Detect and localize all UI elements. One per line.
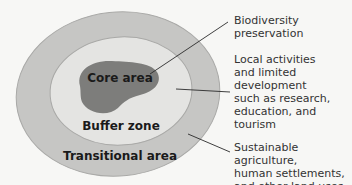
transitional-area-label: Transitional area bbox=[63, 149, 177, 163]
core-area-note: Biodiversity preservation bbox=[234, 14, 303, 40]
transitional-area-note: Sustainable agriculture, human settlemen… bbox=[234, 141, 352, 185]
buffer-zone-label: Buffer zone bbox=[82, 119, 160, 133]
buffer-zone-note: Local activities and limited development… bbox=[234, 53, 330, 131]
core-area-label: Core area bbox=[87, 71, 153, 85]
